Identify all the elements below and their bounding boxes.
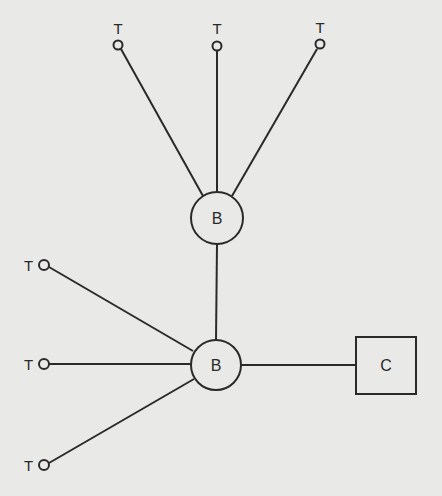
network-diagram: T T T T T T B B C — [0, 0, 442, 496]
terminal-t1: T — [113, 20, 122, 50]
terminal-label: T — [315, 19, 324, 36]
edge-t1-b-upper — [121, 49, 203, 196]
terminal-t3: T — [315, 19, 324, 49]
terminal-circle — [39, 359, 49, 369]
terminal-label: T — [24, 257, 33, 274]
node-label: B — [211, 357, 222, 374]
node-c: C — [356, 337, 416, 394]
terminal-circle — [39, 460, 49, 470]
edge-t3-b-upper — [232, 49, 317, 196]
edge-t4-b-lower — [49, 267, 193, 351]
terminal-circle — [114, 41, 123, 50]
terminal-label: T — [212, 20, 221, 37]
node-label: B — [212, 210, 223, 227]
terminal-label: T — [24, 457, 33, 474]
node-b-lower: B — [191, 340, 241, 390]
node-label: C — [380, 357, 392, 374]
node-b-upper: B — [191, 192, 243, 244]
terminal-t5: T — [24, 356, 49, 373]
terminal-t4: T — [24, 257, 49, 274]
edge-b-upper-b-lower — [216, 244, 217, 340]
terminal-circle — [39, 260, 49, 270]
terminal-circle — [213, 42, 222, 51]
terminal-label: T — [113, 20, 122, 37]
edge-t6-b-lower — [49, 379, 194, 463]
terminal-circle — [316, 40, 325, 49]
terminal-label: T — [24, 356, 33, 373]
terminal-t2: T — [212, 20, 221, 51]
terminal-t6: T — [24, 457, 49, 474]
